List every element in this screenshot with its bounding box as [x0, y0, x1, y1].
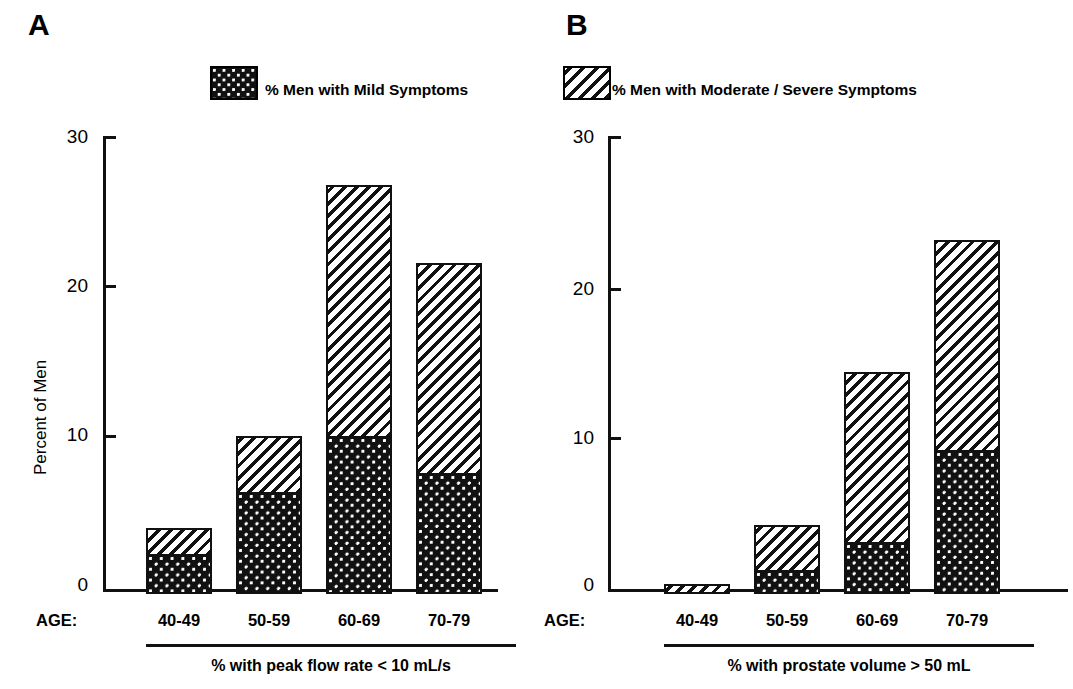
- bar-segment-moderate-severe: [416, 263, 482, 475]
- x-category-label-a-2: 60-69: [314, 612, 404, 629]
- bar-segment-mild: [934, 452, 1000, 594]
- y-tick-a-10: [103, 435, 116, 438]
- x-category-label-a-0: 40-49: [134, 612, 224, 629]
- bar-segment-moderate-severe: [326, 185, 392, 438]
- bar-segment-mild: [236, 494, 302, 594]
- x-category-label-b-0: 40-49: [652, 612, 742, 629]
- bar-a-60-69: [326, 127, 392, 592]
- x-category-label-b-3: 70-79: [922, 612, 1012, 629]
- age-tag-b: AGE:: [544, 612, 585, 629]
- bar-segment-mild: [146, 556, 212, 594]
- y-tick-b-30: [608, 136, 621, 139]
- bar-segment-moderate-severe: [844, 372, 910, 544]
- bar-b-40-49: [664, 127, 730, 592]
- panel-caption-a: % with peak flow rate < 10 mL/s: [146, 658, 516, 674]
- x-category-label-a-1: 50-59: [224, 612, 314, 629]
- y-tick-label-a-10: 10: [44, 425, 88, 444]
- y-tick-label-a-0: 0: [44, 575, 88, 594]
- bar-b-60-69: [844, 127, 910, 592]
- bar-a-50-59: [236, 127, 302, 592]
- x-category-label-b-1: 50-59: [742, 612, 832, 629]
- chart-panel-b: 30 20 10 0 AGE: 40-49 50-59 60-: [536, 0, 1073, 689]
- y-tick-label-b-20: 20: [550, 279, 594, 298]
- bar-segment-mild: [326, 438, 392, 594]
- x-category-label-b-2: 60-69: [832, 612, 922, 629]
- bar-segment-mild: [754, 572, 820, 594]
- y-axis-title-a: Percent of Men: [32, 360, 49, 475]
- y-tick-a-30: [103, 136, 116, 139]
- bar-a-70-79: [416, 127, 482, 592]
- y-tick-label-b-10: 10: [550, 428, 594, 447]
- bar-segment-moderate-severe: [754, 525, 820, 572]
- y-axis-line-b: [608, 136, 611, 592]
- y-tick-b-20: [608, 288, 621, 291]
- panel-caption-b: % with prostate volume > 50 mL: [664, 658, 1034, 674]
- y-tick-label-a-30: 30: [44, 127, 88, 146]
- y-tick-a-20: [103, 285, 116, 288]
- figure-root: A % Men with Mild Symptoms Percent of Me…: [0, 0, 1073, 689]
- y-tick-label-b-0: 0: [550, 575, 594, 594]
- bar-b-70-79: [934, 127, 1000, 592]
- bar-segment-moderate-severe: [236, 436, 302, 494]
- bar-segment-moderate-severe: [146, 528, 212, 556]
- bar-segment-moderate-severe: [934, 240, 1000, 452]
- bar-segment-mild: [416, 475, 482, 594]
- y-tick-label-b-30: 30: [550, 127, 594, 146]
- x-category-label-a-3: 70-79: [404, 612, 494, 629]
- group-rule-a: [146, 644, 516, 647]
- bar-segment-mild: [844, 544, 910, 594]
- bar-segment-moderate-severe: [664, 584, 730, 594]
- bar-b-50-59: [754, 127, 820, 592]
- y-tick-b-10: [608, 437, 621, 440]
- age-tag-a: AGE:: [36, 612, 77, 629]
- y-axis-line-a: [103, 136, 106, 592]
- bar-a-40-49: [146, 127, 212, 592]
- y-tick-label-a-20: 20: [44, 276, 88, 295]
- group-rule-b: [664, 644, 1034, 647]
- chart-panel-a: Percent of Men 30 20 10 0 AGE:: [0, 0, 537, 689]
